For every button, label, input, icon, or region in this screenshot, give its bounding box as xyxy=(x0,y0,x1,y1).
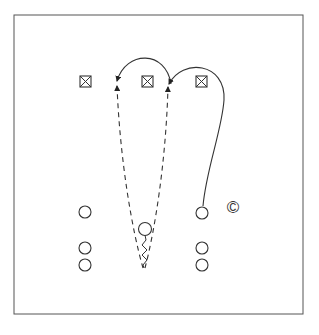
coach-marker: © xyxy=(227,198,240,217)
player-center xyxy=(139,223,152,236)
player-right-1 xyxy=(196,207,208,219)
player-left-3 xyxy=(79,259,91,271)
play-diagram: © xyxy=(0,0,319,335)
diagram-frame xyxy=(14,15,303,314)
player-right-3 xyxy=(196,259,208,271)
player-left-2 xyxy=(79,242,91,254)
player-left-1 xyxy=(79,206,91,218)
player-right-2 xyxy=(196,242,208,254)
